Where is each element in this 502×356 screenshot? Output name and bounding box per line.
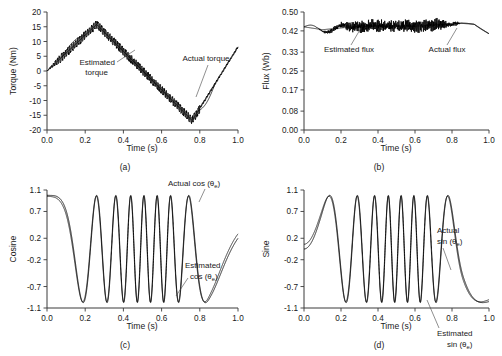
panel-a-estimated-torque-trace	[47, 21, 238, 124]
panel-b-xtick-label: 0.2	[335, 136, 347, 145]
panel-c-xtick-label: 0.8	[194, 314, 206, 323]
panel-b-traces	[304, 18, 489, 34]
panel-b-ytick-label: 0.17	[282, 86, 298, 95]
panel-a-ytick-label: 20	[32, 8, 42, 17]
panel-d-sine: -1.1-0.7-0.20.20.71.1 0.00.20.40.60.81.0…	[251, 178, 502, 356]
panel-d-ytick-label: 0.2	[287, 234, 299, 243]
panel-d-xlabel: Time (s)	[380, 321, 411, 331]
panel-d-annot-estimated-line1: Estimated	[437, 329, 473, 338]
panel-a-annot-estimated-line2: torque	[85, 68, 108, 77]
panel-c-estimated-trace	[47, 196, 238, 302]
panel-a-caption: (a)	[120, 162, 131, 172]
panel-d-caption: (d)	[374, 340, 385, 350]
panel-b-ytick-label: 0.00	[282, 126, 298, 135]
panel-c-y-ticks: -1.1-0.7-0.20.20.71.1	[27, 186, 47, 313]
panel-c-ytick-label: -0.2	[27, 256, 42, 265]
panel-b-flux: 0.000.080.170.250.330.420.50 0.00.20.40.…	[251, 0, 502, 178]
panel-a-actual-leader	[196, 65, 208, 97]
panel-d-xtick-label: 0.8	[446, 314, 458, 323]
panel-d-ytick-label: -0.2	[284, 256, 299, 265]
panel-a-ytick-label: -15	[29, 111, 41, 120]
panel-b-actual-leader	[447, 28, 457, 45]
panel-d-ytick-label: 1.1	[287, 186, 299, 195]
panel-b-ytick-label: 0.25	[282, 67, 298, 76]
panel-d-ytick-label: -1.1	[284, 304, 299, 313]
panel-c-annot-estimated-line2: cos (θe)	[190, 272, 218, 282]
panel-a-ytick-label: 10	[32, 38, 42, 47]
panel-b-y-ticks: 0.000.080.170.250.330.420.50	[282, 8, 304, 135]
panel-a-torque: -20-15-10-505101520 0.00.20.40.60.81.0 T…	[0, 0, 251, 178]
panel-a-ytick-label: 15	[32, 23, 42, 32]
panel-d-y-ticks: -1.1-0.7-0.20.20.71.1	[284, 186, 304, 313]
panel-a-ytick-label: -20	[29, 126, 41, 135]
panel-b-xtick-label: 1.0	[483, 136, 495, 145]
panel-c-ylabel: Cosine	[8, 235, 18, 262]
panel-a-ytick-label: -10	[29, 97, 41, 106]
panel-c-annot-actual: Actual cos (θe)	[168, 179, 220, 189]
panel-a-ylabel: Torque (Nm)	[8, 47, 18, 95]
panel-c-ytick-label: 0.2	[30, 234, 42, 243]
panel-b-annot-actual: Actual flux	[429, 45, 466, 54]
panel-b-annot-estimated: Estimated flux	[324, 45, 374, 54]
panel-c-ytick-label: -1.1	[27, 304, 42, 313]
panel-d-annot-estimated-line2: sin (θe)	[447, 340, 473, 350]
panel-a-annot-actual: Actual torque	[182, 54, 230, 63]
panel-b-ytick-label: 0.08	[282, 107, 298, 116]
panel-b-ytick-label: 0.42	[282, 27, 298, 36]
panel-b-caption: (b)	[374, 162, 385, 172]
panel-c-traces	[47, 195, 238, 302]
panel-a-xtick-label: 1.0	[232, 136, 244, 145]
panel-d-ylabel: Sine	[261, 240, 271, 257]
panel-a-xtick-label: 0.6	[156, 136, 168, 145]
panel-a-xtick-label: 0.0	[41, 136, 53, 145]
panel-d-xtick-label: 0.0	[298, 314, 310, 323]
panel-d-annot-actual-line2: sin (θe)	[437, 237, 463, 247]
panel-c-estimated-leader	[176, 278, 188, 296]
panel-c-actual-leader	[199, 189, 205, 202]
panel-d-ytick-label: 0.7	[287, 207, 299, 216]
panel-d-xtick-label: 0.2	[335, 314, 347, 323]
panel-c-cosine: -1.1-0.7-0.20.20.71.1 0.00.20.40.60.81.0…	[0, 178, 251, 356]
panel-a-xtick-label: 0.8	[194, 136, 206, 145]
panel-a-annot-estimated-line1: Estimated	[79, 58, 115, 67]
panel-d-xtick-label: 1.0	[483, 314, 495, 323]
panel-a-ytick-label: 5	[36, 52, 41, 61]
panel-a-xlabel: Time (s)	[126, 143, 157, 153]
panel-d-traces	[304, 195, 489, 302]
panel-c-caption: (c)	[120, 340, 130, 350]
panel-a-ytick-label: 0	[36, 67, 41, 76]
panel-b-xtick-label: 0.8	[446, 136, 458, 145]
panel-b-xlabel: Time (s)	[380, 143, 411, 153]
figure-four-panel-plot: -20-15-10-505101520 0.00.20.40.60.81.0 T…	[0, 0, 502, 356]
panel-c-xtick-label: 0.2	[80, 314, 92, 323]
panel-b-ytick-label: 0.33	[282, 48, 298, 57]
panel-c-xtick-label: 0.0	[41, 314, 53, 323]
panel-c-ytick-label: 1.1	[30, 186, 42, 195]
panel-d-estimated-trace	[304, 196, 489, 302]
panel-a-y-ticks: -20-15-10-505101520	[29, 8, 47, 135]
panel-c-annot-estimated-line1: Estimated	[185, 261, 221, 270]
panel-d-annot-actual-line1: Actual	[437, 226, 459, 235]
panel-c-xtick-label: 0.6	[156, 314, 168, 323]
panel-d-ytick-label: -0.7	[284, 283, 299, 292]
panel-a-ytick-label: -5	[34, 82, 42, 91]
panel-d-actual-leader	[443, 248, 451, 270]
panel-b-ytick-label: 0.50	[282, 8, 298, 17]
panel-c-ytick-label: 0.7	[30, 207, 42, 216]
panel-d-estimated-leader	[427, 300, 439, 328]
panel-c-xlabel: Time (s)	[126, 321, 157, 331]
panel-c-ytick-label: -0.7	[27, 283, 42, 292]
panel-c-xtick-label: 1.0	[232, 314, 244, 323]
panel-a-xtick-label: 0.2	[80, 136, 92, 145]
panel-a-traces	[47, 21, 238, 124]
panel-b-xtick-label: 0.0	[298, 136, 310, 145]
panel-b-ylabel: Flux (Wb)	[261, 52, 271, 89]
